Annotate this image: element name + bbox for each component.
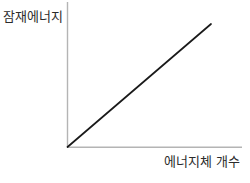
x-axis-label: 에너지체 개수	[164, 154, 240, 169]
chart-figure: 잠재에너지 에너지체 개수	[0, 0, 250, 183]
y-axis-label: 잠재에너지	[3, 9, 64, 24]
